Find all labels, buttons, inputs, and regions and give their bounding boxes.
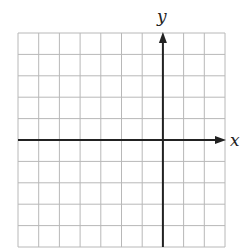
y-axis-label: y [156, 6, 167, 26]
coordinate-grid: x y [0, 0, 245, 249]
x-axis-label: x [230, 130, 240, 150]
y-axis-arrow-icon [159, 32, 167, 43]
x-axis-arrow-icon [215, 136, 226, 144]
